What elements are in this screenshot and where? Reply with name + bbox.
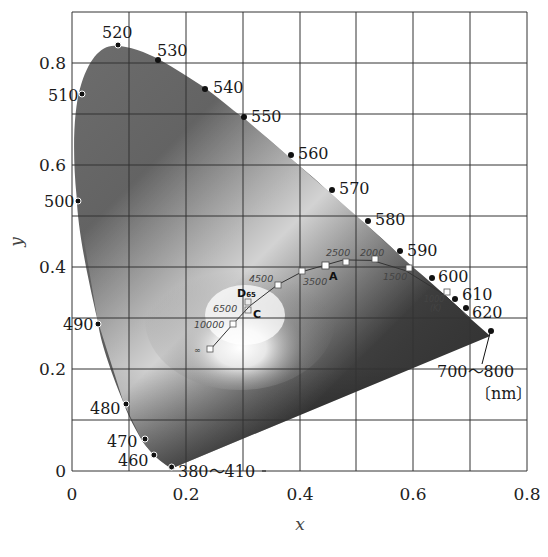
wavelength-marker bbox=[151, 452, 157, 458]
wavelength-marker bbox=[123, 401, 129, 407]
temp-label: 10000 bbox=[194, 319, 224, 330]
temp-label: 4500 bbox=[249, 273, 273, 284]
temp-label: 3500 bbox=[303, 276, 327, 287]
wavelength-marker bbox=[329, 187, 335, 193]
temp-marker bbox=[343, 259, 349, 265]
spectral-locus-region bbox=[60, 30, 510, 480]
y-axis-ticks: 0 0.2 0.4 0.6 0.8 bbox=[39, 53, 66, 481]
wavelength-marker bbox=[142, 436, 148, 442]
wavelength-marker bbox=[79, 91, 85, 97]
wavelength-label: 500 bbox=[44, 192, 75, 211]
wavelength-marker bbox=[488, 328, 494, 334]
wavelength-marker bbox=[169, 464, 175, 470]
wavelength-label: 570 bbox=[339, 179, 370, 198]
temp-marker bbox=[444, 289, 450, 295]
wavelength-marker bbox=[452, 296, 458, 302]
wavelength-label: 530 bbox=[157, 41, 188, 60]
chromaticity-chart: 0 0.2 0.4 0.6 0.8 0 0.2 0.4 0.6 0.8 x y … bbox=[0, 0, 548, 557]
nm-unit-label: 〔nm〕 bbox=[475, 384, 532, 403]
wavelength-marker bbox=[365, 218, 371, 224]
illuminant-d-letter: D bbox=[237, 287, 246, 300]
y-tick: 0 bbox=[55, 461, 66, 481]
x-axis-ticks: 0 0.2 0.4 0.6 0.8 bbox=[67, 484, 541, 504]
wavelength-label: 620 bbox=[472, 303, 503, 322]
y-tick: 0.6 bbox=[39, 155, 66, 175]
wavelength-label: 550 bbox=[251, 107, 282, 126]
wavelength-label: 590 bbox=[407, 241, 438, 260]
temp-label: 2000 bbox=[360, 247, 384, 258]
wavelength-label: 560 bbox=[298, 144, 329, 163]
wavelength-label: 380～410 bbox=[178, 462, 255, 481]
x-axis-label: x bbox=[295, 514, 305, 534]
x-tick: 0.8 bbox=[513, 484, 540, 504]
wavelength-label: 580 bbox=[375, 210, 406, 229]
wavelength-label: 600 bbox=[438, 267, 469, 286]
temp-label: 6500 bbox=[213, 303, 237, 314]
illuminant-a-marker bbox=[322, 262, 329, 269]
temp-label: 1000 bbox=[424, 295, 444, 304]
wavelength-marker bbox=[288, 152, 294, 158]
y-tick: 0.2 bbox=[39, 359, 66, 379]
illuminant-d-subscript: 65 bbox=[246, 291, 256, 299]
temp-marker bbox=[275, 282, 281, 288]
wavelength-marker bbox=[429, 275, 435, 281]
temp-marker bbox=[299, 268, 305, 274]
wavelength-marker bbox=[397, 248, 403, 254]
wavelength-label: 460 bbox=[118, 451, 149, 470]
wavelength-label: 480 bbox=[90, 399, 121, 418]
wavelength-marker bbox=[202, 86, 208, 92]
illuminant-a-label: A bbox=[329, 270, 338, 283]
wavelength-marker bbox=[241, 114, 247, 120]
temp-label: 1500 bbox=[383, 271, 407, 282]
x-tick: 0 bbox=[67, 484, 78, 504]
y-axis-label: y bbox=[6, 237, 26, 248]
y-tick: 0.8 bbox=[39, 53, 66, 73]
wavelength-marker bbox=[463, 305, 469, 311]
wavelength-label: 510 bbox=[48, 86, 79, 105]
wavelength-label: 700～800 bbox=[437, 362, 514, 381]
x-tick: 0.6 bbox=[399, 484, 426, 504]
temp-label: ∞ bbox=[194, 346, 201, 355]
x-tick: 0.4 bbox=[286, 484, 313, 504]
wavelength-label: 520 bbox=[102, 23, 133, 42]
illuminant-c-label: C bbox=[253, 308, 261, 321]
wavelength-label: 610 bbox=[462, 285, 493, 304]
wavelength-label: 490 bbox=[63, 315, 94, 334]
wavelength-marker bbox=[115, 42, 121, 48]
temp-marker bbox=[207, 346, 213, 352]
temp-marker bbox=[230, 321, 236, 327]
temp-label: 2500 bbox=[326, 247, 350, 258]
wavelength-label: 540 bbox=[213, 78, 244, 97]
x-tick: 0.2 bbox=[172, 484, 199, 504]
y-tick: 0.4 bbox=[39, 257, 66, 277]
wavelength-marker bbox=[95, 321, 101, 327]
wavelength-label: 470 bbox=[107, 432, 138, 451]
wavelength-marker bbox=[75, 198, 81, 204]
temp-unit-label: (K) bbox=[430, 304, 442, 313]
